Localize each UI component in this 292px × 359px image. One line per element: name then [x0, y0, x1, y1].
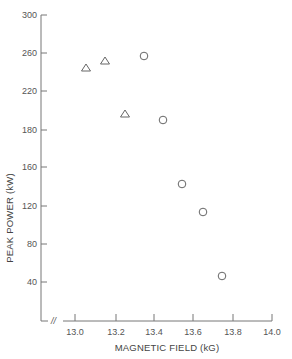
- y-tick-label: 300: [22, 10, 37, 20]
- y-tick-label: 260: [22, 48, 37, 58]
- circle-marker: [199, 208, 207, 216]
- triangle-marker: [82, 64, 91, 71]
- x-tick-label: 13.6: [184, 327, 202, 337]
- triangle-marker: [121, 110, 130, 117]
- x-tick-label: 13.8: [224, 327, 242, 337]
- y-tick-label: 160: [22, 162, 37, 172]
- circle-marker: [218, 272, 226, 280]
- circle-marker: [140, 52, 148, 60]
- x-axis-title: MAGNETIC FIELD (kG): [115, 342, 220, 353]
- y-tick-label: 40: [27, 277, 37, 287]
- circle-marker: [159, 116, 167, 124]
- y-tick-label: 220: [22, 86, 37, 96]
- x-tick-label: 13.2: [107, 327, 125, 337]
- axis-break-icon: //: [50, 316, 58, 326]
- scatter-chart: 3002602201801601208040 //13.013.213.413.…: [0, 0, 292, 359]
- y-tick-label: 120: [22, 201, 37, 211]
- y-axis: 3002602201801601208040: [22, 10, 47, 321]
- circle-marker: [178, 180, 186, 188]
- y-axis-title: PEAK POWER (kW): [4, 173, 15, 263]
- x-tick-label: 13.0: [66, 327, 84, 337]
- x-tick-label: 14.0: [263, 327, 281, 337]
- data-markers: [82, 52, 226, 280]
- x-axis: //13.013.213.413.613.814.0: [41, 314, 281, 337]
- y-tick-label: 180: [22, 125, 37, 135]
- y-tick-label: 80: [27, 239, 37, 249]
- x-tick-label: 13.4: [145, 327, 163, 337]
- triangle-marker: [101, 57, 110, 64]
